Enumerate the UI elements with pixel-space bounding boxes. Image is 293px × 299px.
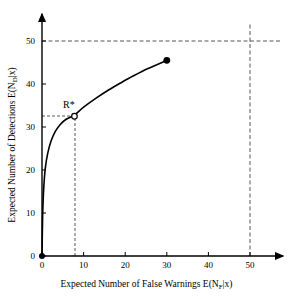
- y-axis-title-suffix: |x): [7, 67, 17, 77]
- x-tick-label-30: 30: [155, 261, 179, 270]
- y-tick-label-30: 30: [17, 123, 35, 132]
- plot-area: [0, 0, 293, 299]
- x-axis-title-subscript: F: [219, 283, 223, 291]
- x-tick-label-40: 40: [196, 261, 220, 270]
- x-tick-label-10: 10: [72, 261, 96, 270]
- origin-point-marker: [39, 253, 45, 259]
- y-axis-title: Expected Number of Detections E(ND|x): [7, 29, 17, 261]
- x-tick-label-0: 0: [30, 261, 54, 270]
- y-axis-title-prefix: Expected Number of Detections E(N: [7, 82, 17, 222]
- y-tick-label-20: 20: [17, 166, 35, 175]
- y-axis-title-subscript: D: [11, 77, 19, 82]
- chart-figure: 0 10 20 30 40 50 0 10 20 30 40 50 R* Exp…: [0, 0, 293, 299]
- x-axis-title-suffix: |x): [223, 279, 233, 289]
- y-tick-label-10: 10: [17, 209, 35, 218]
- y-tick-label-0: 0: [17, 252, 35, 261]
- y-tick-label-40: 40: [17, 80, 35, 89]
- x-axis-title-prefix: Expected Number of False Warnings E(N: [61, 279, 219, 289]
- y-tick-label-50: 50: [17, 37, 35, 46]
- r-star-annotation: R*: [63, 99, 75, 110]
- x-tick-label-50: 50: [238, 261, 262, 270]
- r-star-text: R*: [63, 99, 75, 110]
- operating-point-R-star-marker: [72, 113, 78, 119]
- x-axis-title: Expected Number of False Warnings E(NF|x…: [0, 279, 293, 289]
- data-curve: [42, 60, 167, 256]
- x-tick-label-20: 20: [113, 261, 137, 270]
- curve-endpoint-marker: [163, 57, 170, 64]
